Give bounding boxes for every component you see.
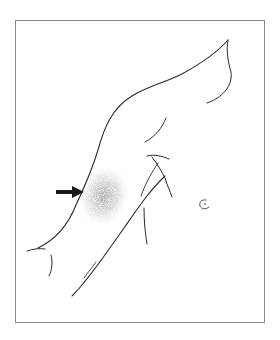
chest-outline [145,118,166,142]
figure-frame [16,21,265,323]
arm-outer-outline [38,40,228,248]
torso-side-outline [144,208,147,244]
armpit-line-1 [152,157,172,197]
nipple-dot [204,203,206,205]
armpit-line-2 [141,163,158,196]
shaded-lesion [72,160,136,232]
armpit-fold [147,155,169,159]
illustration-canvas [0,0,280,340]
elbow-crease [49,255,52,276]
elbow-outline [27,249,45,251]
medical-illustration: Line drawing of a raised arm and upper t… [0,0,280,340]
